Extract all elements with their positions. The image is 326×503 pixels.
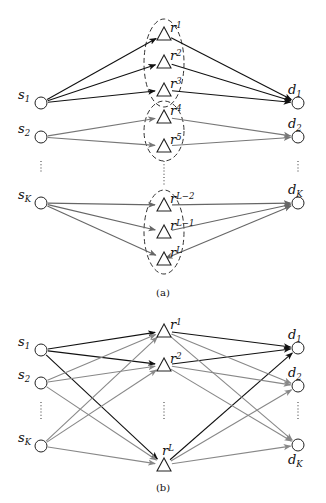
source-label: s1 bbox=[18, 87, 30, 104]
edge-r1-d1 bbox=[171, 38, 291, 100]
relay-node-icon bbox=[157, 139, 171, 152]
edge-r4-d2 bbox=[172, 118, 291, 136]
edge-sK-rL bbox=[48, 447, 155, 464]
edge-r5-d2 bbox=[172, 138, 291, 146]
edge-rL-dK bbox=[171, 206, 291, 256]
edge-s2-r4 bbox=[48, 118, 155, 135]
edge-s2-r5 bbox=[48, 138, 155, 146]
relay-label: rL bbox=[162, 443, 174, 458]
edge-s1-rL bbox=[46, 355, 157, 459]
source-label: s1 bbox=[18, 334, 30, 351]
destination-label: d1 bbox=[288, 327, 302, 344]
relay-node-icon bbox=[157, 55, 171, 68]
destination-label: dK bbox=[288, 182, 303, 199]
diagram-canvas: s1s2sKr1r2r3r4r5rL−2rL−1rLd1d2dK(a) s1s2… bbox=[0, 0, 326, 503]
panel-caption: (b) bbox=[156, 482, 170, 493]
edge-s2-r2 bbox=[48, 366, 155, 382]
destination-label: d2 bbox=[288, 116, 302, 133]
relay-node-icon bbox=[157, 252, 171, 265]
relay-label: r2 bbox=[170, 351, 182, 366]
panel-caption: (a) bbox=[156, 287, 170, 298]
source-node-icon bbox=[35, 344, 47, 356]
relay-node-icon bbox=[157, 458, 171, 471]
source-label: sK bbox=[18, 430, 32, 447]
relay-node-icon bbox=[157, 83, 171, 96]
relay-node-icon bbox=[157, 198, 171, 211]
destination-node-icon bbox=[292, 439, 304, 451]
source-node-icon bbox=[35, 197, 47, 209]
source-node-icon bbox=[35, 97, 47, 109]
edge-r2-d1 bbox=[172, 349, 291, 364]
destination-label: d1 bbox=[288, 82, 302, 99]
edge-s2-r1 bbox=[47, 335, 155, 381]
source-label: sK bbox=[18, 187, 32, 204]
edge-sK-rL-1 bbox=[48, 205, 155, 230]
relay-label: rL−2 bbox=[170, 191, 194, 206]
source-node-icon bbox=[35, 131, 47, 143]
edge-r1-d1 bbox=[172, 332, 291, 347]
edge-s1-r1 bbox=[47, 38, 156, 99]
edge-r2-d1 bbox=[172, 64, 291, 100]
source-label: s2 bbox=[18, 367, 30, 384]
edge-r1-dK bbox=[170, 336, 292, 440]
relay-node-icon bbox=[157, 358, 171, 371]
relay-node-icon bbox=[157, 324, 171, 337]
source-node-icon bbox=[35, 377, 47, 389]
edge-sK-r2 bbox=[47, 370, 157, 442]
destination-label: d2 bbox=[288, 365, 302, 382]
source-label: s2 bbox=[18, 121, 30, 138]
relay-label: r4 bbox=[170, 103, 182, 118]
panel-a: s1s2sKr1r2r3r4r5rL−2rL−1rLd1d2dK(a) bbox=[18, 19, 304, 298]
relay-label: r1 bbox=[170, 20, 182, 35]
edge-sK-rL bbox=[47, 206, 155, 255]
edge-s1-r3 bbox=[48, 91, 155, 102]
relay-node-icon bbox=[157, 27, 171, 40]
relay-label: rL−1 bbox=[170, 218, 194, 233]
edge-rL-d2 bbox=[171, 390, 292, 461]
edge-rL-dK bbox=[172, 446, 291, 464]
relay-label: rL bbox=[170, 245, 182, 260]
source-node-icon bbox=[35, 440, 47, 452]
edge-rL-2-dK bbox=[172, 203, 291, 205]
relay-network-figure: s1s2sKr1r2r3r4r5rL−2rL−1rLd1d2dK(a) s1s2… bbox=[0, 0, 326, 503]
panel-b: s1s2sKr1r2rLd1d2dK(b) bbox=[18, 317, 304, 493]
relay-label: r1 bbox=[170, 317, 182, 332]
edge-s1-r1 bbox=[48, 332, 155, 349]
edge-r3-d1 bbox=[172, 91, 291, 103]
relay-label: r2 bbox=[170, 48, 182, 63]
edge-s1-r2 bbox=[48, 65, 156, 101]
relay-node-icon bbox=[157, 110, 171, 123]
relay-node-icon bbox=[157, 225, 171, 238]
edge-r2-dK bbox=[171, 369, 292, 441]
destination-label: dK bbox=[288, 452, 303, 469]
edge-sK-rL-2 bbox=[48, 203, 155, 205]
